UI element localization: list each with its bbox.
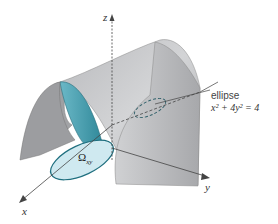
annotation-equation: x² + 4y² = 4 [211,102,259,113]
z-axis-label: z [103,11,107,23]
z-axis-arrow [110,14,115,21]
y-axis-label: y [205,181,210,193]
y-axis-arrow [201,173,210,180]
region-label: Ωxy [78,151,92,166]
region-subscript: xy [86,158,92,166]
x-axis-arrow [19,195,27,203]
annotation-title: ellipse [211,90,239,101]
x-axis-label: x [22,205,27,217]
region-omega: Ω [78,151,86,163]
